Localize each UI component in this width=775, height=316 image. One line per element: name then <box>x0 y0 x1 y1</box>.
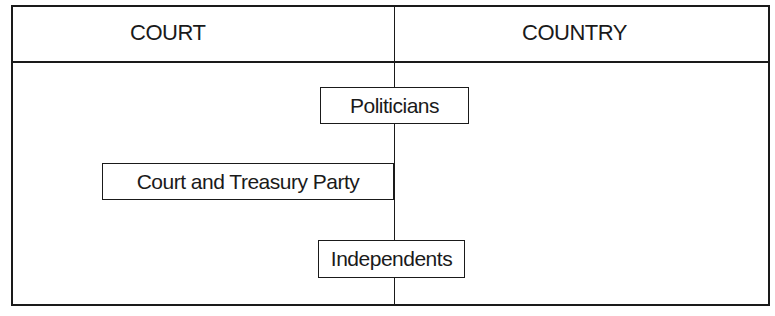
column-header-country: COUNTRY <box>522 20 627 46</box>
group-box-independents: Independents <box>318 240 465 278</box>
group-box-court-and-treasury-party: Court and Treasury Party <box>102 163 394 200</box>
group-box-politicians: Politicians <box>320 87 469 124</box>
group-label-politicians: Politicians <box>350 94 439 118</box>
column-header-court: COURT <box>130 20 205 46</box>
group-label-court-and-treasury-party: Court and Treasury Party <box>137 170 360 194</box>
group-label-independents: Independents <box>331 247 452 271</box>
header-separator-line <box>11 61 768 63</box>
